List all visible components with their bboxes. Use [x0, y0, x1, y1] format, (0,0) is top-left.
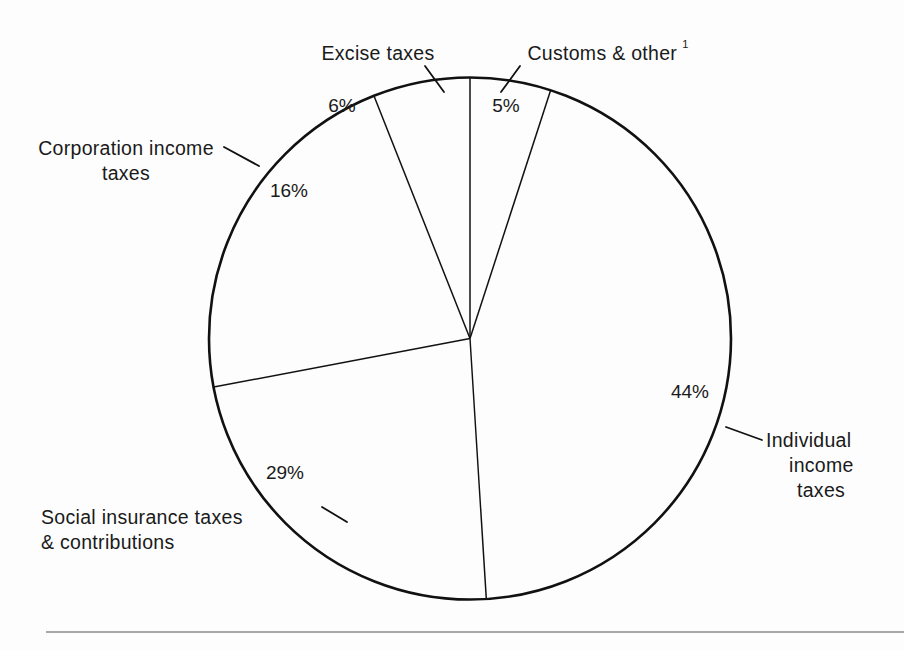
category-label-social-insurance-line2: & contributions: [41, 531, 175, 553]
pie-chart-svg: 6% 5% 16% 44% 29% Excise taxes Customs &…: [0, 0, 904, 650]
value-label-corporation: 16%: [270, 180, 308, 201]
leader-line-individual: [726, 427, 762, 440]
value-label-individual: 44%: [671, 381, 709, 402]
customs-footnote-marker: 1: [682, 38, 688, 50]
slice-divider-176deg: [470, 339, 486, 600]
value-label-excise: 6%: [328, 95, 356, 116]
category-label-excise-taxes: Excise taxes: [321, 42, 434, 64]
category-label-individual-income-taxes-line3: taxes: [797, 479, 845, 501]
category-label-individual-income-taxes-line1: Individual: [766, 429, 851, 451]
customs-label-text: Customs & other: [527, 42, 677, 64]
slice-divider-18deg: [470, 90, 551, 338]
category-label-corporation-income-taxes-line2: taxes: [102, 162, 150, 184]
leader-line-social: [322, 507, 347, 522]
category-label-customs-other: Customs & other1: [527, 38, 688, 64]
slice-divider-281deg: [214, 339, 470, 388]
value-label-customs: 5%: [492, 95, 520, 116]
category-label-social-insurance-line1: Social insurance taxes: [41, 506, 243, 528]
leader-line-corporation: [224, 147, 259, 166]
category-label-corporation-income-taxes-line1: Corporation income: [38, 137, 214, 159]
slice-divider-338deg: [374, 96, 470, 339]
category-label-individual-income-taxes-line2: income: [789, 454, 854, 476]
pie-chart-figure: 6% 5% 16% 44% 29% Excise taxes Customs &…: [0, 0, 904, 650]
value-label-social: 29%: [266, 462, 304, 483]
